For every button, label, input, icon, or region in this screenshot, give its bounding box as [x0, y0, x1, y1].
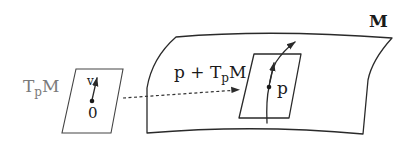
origin-point [90, 99, 95, 104]
point-p [267, 85, 272, 90]
mapping-arrowhead-icon [231, 87, 240, 93]
affine-label-T: T [210, 62, 222, 82]
affine-label-M: M [229, 62, 246, 82]
affine-label-prefix: p + [174, 62, 210, 82]
tangent-space-diagram: M TpM v 0 p + TpM p [0, 0, 410, 145]
tangent-space-label: TpM [23, 76, 59, 99]
tangent-space-label-M: M [42, 76, 59, 96]
vector-v-label: v [86, 74, 94, 88]
tangent-vector-arrow [270, 63, 274, 82]
manifold-label: M [369, 11, 388, 31]
tangent-space-label-T: T [23, 76, 35, 96]
affine-tangent-plane-label: p + TpM [174, 62, 246, 85]
origin-label: 0 [88, 104, 98, 122]
mapping-dashed-arrow [123, 90, 238, 98]
point-p-label: p [277, 78, 288, 98]
